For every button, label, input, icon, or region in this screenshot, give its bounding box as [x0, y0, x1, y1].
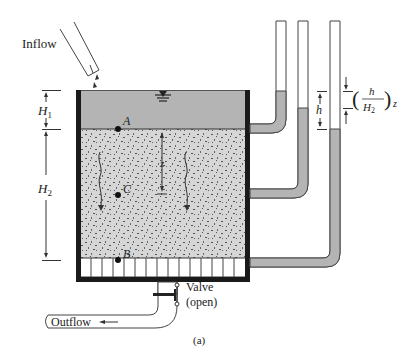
point-c — [115, 192, 121, 198]
outflow-label: Outflow — [51, 315, 91, 329]
point-a — [115, 126, 121, 132]
h2-label: H2 — [37, 181, 52, 198]
inflow-pipe — [60, 22, 99, 88]
fraction-denominator: H2 — [362, 101, 375, 115]
h1-label: H1 — [37, 103, 52, 120]
valve-label: Valve — [186, 280, 213, 294]
fraction-z: z — [392, 98, 397, 109]
permeameter-diagram: Inflow — [0, 0, 405, 359]
svg-text:(: ( — [352, 86, 359, 111]
piezometer-tube-3 — [250, 21, 340, 267]
figure-caption: (a) — [193, 334, 206, 347]
outflow-arrow-icon — [99, 320, 118, 324]
z-label: z — [159, 157, 165, 169]
inflow-label: Inflow — [22, 36, 57, 51]
point-a-label: A — [122, 114, 131, 128]
point-b — [115, 257, 121, 263]
bottom-screen — [80, 258, 246, 277]
point-b-label: B — [123, 247, 131, 261]
valve-state-label: (open) — [186, 295, 217, 309]
h-label: h — [316, 103, 322, 117]
inflow-arrow-icon — [95, 74, 99, 80]
piezometer-tube-1 — [250, 21, 286, 133]
fraction-numerator: h — [369, 85, 375, 97]
point-c-label: C — [123, 182, 132, 196]
svg-text:): ) — [384, 86, 391, 111]
